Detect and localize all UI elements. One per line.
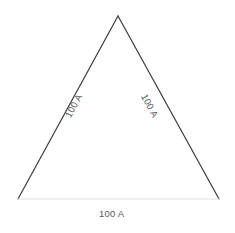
triangle-right-edge	[118, 16, 219, 199]
diagram-canvas: 100 A 100 A 100 A	[0, 0, 235, 233]
triangle-figure	[0, 0, 235, 233]
bottom-side-length-label: 100 A	[99, 209, 124, 219]
